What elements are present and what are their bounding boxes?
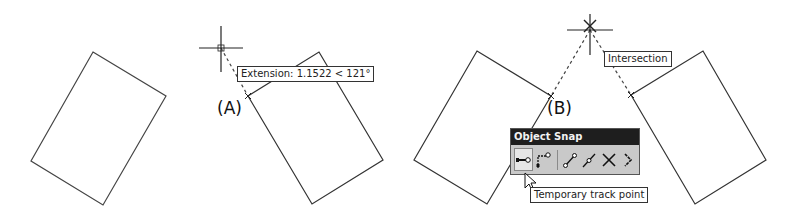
track-marker-a [245,93,251,99]
tracking-line-b-left [551,30,590,96]
toolbar-title[interactable]: Object Snap [511,129,639,145]
snap-midpoint-icon [581,151,597,169]
extension-tooltip: Extension: 1.1522 < 121° [237,66,374,82]
snap-from-button[interactable] [535,149,553,171]
snap-intersection-icon [601,151,617,169]
snap-endpoint-button[interactable] [561,149,579,171]
snap-from-icon [535,151,551,169]
point-label-a: (A) [217,99,242,117]
crosshair-cursor-b [567,14,613,55]
snap-intersection-button[interactable] [600,149,618,171]
temporary-track-point-icon [515,155,531,165]
track-marker-b-right [628,92,634,98]
toolbar-separator [557,150,558,170]
toolbar-tooltip: Temporary track point [530,187,648,203]
temporary-track-point-button[interactable] [514,148,533,171]
snap-midpoint-button[interactable] [581,149,599,171]
rectangle-b-right[interactable] [631,51,766,204]
rectangle-left[interactable] [31,52,166,205]
snap-apparent-intersection-icon [623,151,633,169]
snap-endpoint-icon [562,151,578,169]
drawing-canvas[interactable] [0,0,799,215]
snap-apparent-intersection-button[interactable] [620,149,638,171]
point-label-b: (B) [547,99,572,117]
toolbar-buttons [511,145,639,174]
intersection-tooltip: Intersection [604,51,672,67]
object-snap-toolbar: Object Snap [510,128,640,175]
